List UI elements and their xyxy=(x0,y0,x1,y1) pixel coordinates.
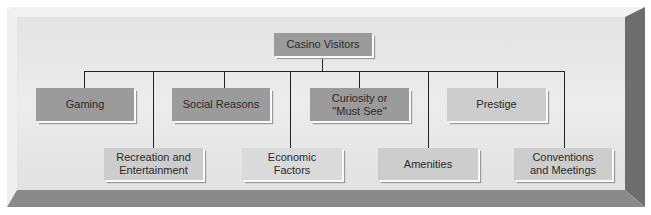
connector-root-down xyxy=(322,57,323,72)
connector-recreation xyxy=(153,71,154,148)
connector-prestige xyxy=(497,71,498,88)
node-label: Prestige xyxy=(476,98,516,111)
connector-gaming xyxy=(84,71,85,88)
node-label: Conventions and Meetings xyxy=(522,151,604,177)
node-label: Gaming xyxy=(66,98,105,111)
connector-economic xyxy=(290,71,291,148)
node-conventions-meetings: Conventions and Meetings xyxy=(514,148,612,180)
node-label: Casino Visitors xyxy=(286,38,359,51)
connector-social xyxy=(224,71,225,88)
node-social-reasons: Social Reasons xyxy=(172,88,270,121)
node-amenities: Amenities xyxy=(378,148,478,180)
node-casino-visitors: Casino Visitors xyxy=(274,33,372,56)
connector-horizontal-bar xyxy=(84,71,565,72)
node-prestige: Prestige xyxy=(447,88,546,121)
node-label: Economic Factors xyxy=(266,151,318,177)
node-gaming: Gaming xyxy=(36,88,134,121)
connector-conventions xyxy=(564,71,565,148)
node-label: Recreation and Entertainment xyxy=(116,151,191,177)
node-label: Amenities xyxy=(404,158,452,171)
node-recreation-entertainment: Recreation and Entertainment xyxy=(104,148,203,180)
node-curiosity-must-see: Curiosity or "Must See" xyxy=(310,88,409,121)
connector-curiosity xyxy=(359,71,360,88)
node-label: Curiosity or "Must See" xyxy=(324,92,395,118)
node-label: Social Reasons xyxy=(183,98,259,111)
connector-amenities xyxy=(428,71,429,148)
node-economic-factors: Economic Factors xyxy=(242,148,342,180)
